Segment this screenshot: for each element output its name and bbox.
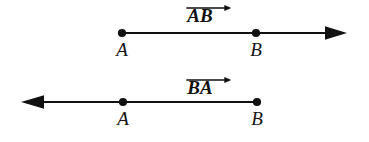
vector-label-ba-text: BA [187, 77, 212, 98]
ray-ab-point-a-dot [118, 29, 126, 37]
point-label-b-row2: B [251, 109, 263, 128]
vector-diagram: AB A B BA A B [0, 0, 369, 142]
point-label-a-row2: A [117, 109, 129, 128]
point-label-b-row1: B [250, 40, 262, 59]
point-label-a-row1: A [116, 40, 128, 59]
canvas-background [0, 0, 369, 142]
ray-ba-point-a-dot [119, 98, 127, 106]
ray-ab-point-b-dot [252, 29, 260, 37]
diagram-canvas [0, 0, 369, 142]
vector-label-ab: AB [187, 4, 212, 25]
ray-ba-point-b-dot [253, 98, 261, 106]
vector-label-ba: BA [187, 76, 212, 97]
vector-label-ab-text: AB [187, 5, 212, 26]
